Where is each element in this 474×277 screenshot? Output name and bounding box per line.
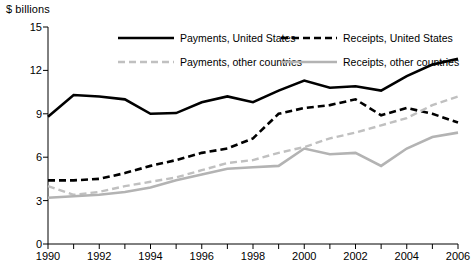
x-axis-tick-label: 2000 xyxy=(292,250,316,262)
legend-swatch-0 xyxy=(118,32,174,44)
series-line-3 xyxy=(48,133,458,198)
legend-swatch-3 xyxy=(281,56,337,68)
x-axis-tick-label: 1994 xyxy=(138,250,162,262)
series-line-2 xyxy=(48,96,458,194)
legend-marker-icon xyxy=(281,32,337,44)
x-axis-tick-label: 2004 xyxy=(395,250,419,262)
x-axis-tick-label: 1992 xyxy=(87,250,111,262)
legend-marker-icon xyxy=(281,56,337,68)
legend-label: Receipts, United States xyxy=(343,32,453,44)
legend-swatch-2 xyxy=(118,56,174,68)
line-chart: $ billions 03691215 19901992199419961998… xyxy=(0,0,474,277)
x-axis-tick-label: 1996 xyxy=(190,250,214,262)
legend-label: Receipts, other countries xyxy=(343,56,459,68)
x-axis-tick-label: 2002 xyxy=(343,250,367,262)
legend-label: Payments, United States xyxy=(180,32,296,44)
x-axis-tick-label: 2006 xyxy=(446,250,470,262)
x-axis-tick-label: 1990 xyxy=(36,250,60,262)
legend-marker-icon xyxy=(118,56,174,68)
legend-marker-icon xyxy=(118,32,174,44)
legend-swatch-1 xyxy=(281,32,337,44)
x-axis-tick-label: 1998 xyxy=(241,250,265,262)
